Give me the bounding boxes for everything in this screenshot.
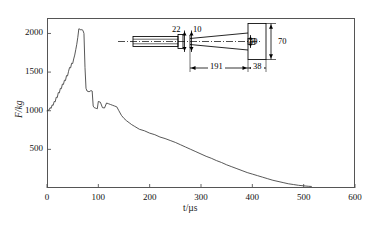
y-axis-title: F/kg	[14, 101, 24, 118]
dim-10-label: 10	[193, 24, 202, 34]
x-tick-label-600: 600	[346, 192, 364, 202]
plot-frame	[47, 18, 355, 188]
y-tick-label-2000: 2000	[10, 27, 43, 37]
x-tick-label-0: 0	[38, 192, 56, 202]
dim-70-label: 70	[278, 36, 287, 46]
dim-40-label: 40	[249, 36, 258, 46]
dim-38-label: 38	[251, 61, 264, 71]
y-tick-label-500: 500	[10, 143, 43, 153]
x-tick-label-500: 500	[295, 192, 313, 202]
y-tick-label-1500: 1500	[10, 66, 43, 76]
x-axis-title: t/µs	[183, 203, 197, 213]
x-tick-label-300: 300	[192, 192, 210, 202]
x-tick-label-400: 400	[243, 192, 261, 202]
dim-22-label: 22	[172, 24, 181, 34]
figure-root: 0100200300400500600 500100015002000 t/µs…	[0, 0, 380, 232]
x-tick-label-100: 100	[89, 192, 107, 202]
dim-191-label: 191	[208, 61, 225, 71]
x-tick-label-200: 200	[141, 192, 159, 202]
